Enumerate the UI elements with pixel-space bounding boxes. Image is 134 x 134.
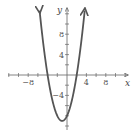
y-tick-labels: 84−4 [52,30,64,100]
y-tick-label: 8 [59,30,64,39]
parabola-chart: −848 84−4 x y [0,0,134,134]
x-axis-label: x [125,78,130,88]
x-tick-labels: −848 [22,78,108,87]
x-tick-label: −8 [22,78,34,87]
y-tick-label: −4 [52,91,64,100]
x-tick-label: 4 [84,78,89,87]
y-axis-label: y [56,5,63,15]
x-tick-label: 8 [103,78,108,87]
y-tick-label: 4 [59,51,64,60]
parabola-curve [40,11,85,121]
